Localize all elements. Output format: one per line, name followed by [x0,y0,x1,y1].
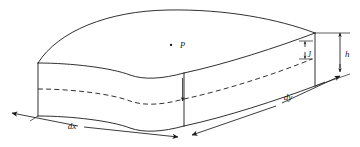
solid-body-fills [38,10,314,130]
dx-label: dx [68,121,77,131]
inner-dimension-label: J [308,50,312,59]
point-p-label: P [179,40,185,50]
h-extension-bottom [315,74,350,86]
h-label: h [345,49,350,59]
h-dimension-group: h [315,33,350,86]
dy-label: dy [284,92,293,102]
point-dot [170,44,172,46]
figure-container: P dx dy [0,0,360,147]
curved-element-diagram: P dx dy [0,0,360,147]
